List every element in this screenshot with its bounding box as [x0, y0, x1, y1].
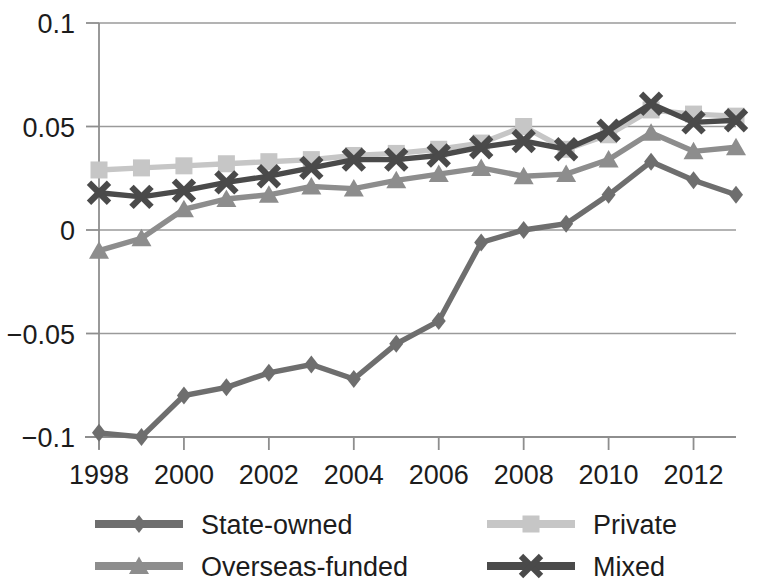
legend-item-state-owned: State-owned: [95, 510, 353, 540]
legend-label-state-owned: State-owned: [201, 510, 353, 540]
marker-square: [133, 159, 150, 176]
square-marker: [218, 155, 235, 172]
chart-canvas: 0.10.050−0.05−0.1 1998200020022004200620…: [0, 0, 776, 585]
x-tick-label-5: 2008: [494, 460, 554, 490]
x-tick-label-3: 2004: [324, 460, 384, 490]
marker-square: [523, 516, 540, 533]
marker-diamond: [304, 356, 318, 374]
legend-label-overseas-funded: Overseas-funded: [201, 552, 408, 582]
y-tick-label-1: 0.05: [22, 113, 75, 143]
marker-diamond: [132, 515, 146, 533]
diamond-marker: [729, 186, 743, 204]
series-line: [99, 162, 736, 437]
diamond-marker: [92, 424, 106, 442]
marker-square: [91, 161, 108, 178]
square-marker: [133, 159, 150, 176]
square-marker: [523, 516, 540, 533]
legend-item-private: Private: [487, 510, 677, 540]
marker-diamond: [517, 221, 531, 239]
x-tick-label-1: 2000: [154, 460, 214, 490]
square-marker: [175, 157, 192, 174]
diamond-marker: [219, 378, 233, 396]
y-tick-label-3: −0.05: [7, 320, 75, 350]
legend-item-overseas-funded: Overseas-funded: [95, 552, 408, 582]
diamond-marker: [262, 364, 276, 382]
gridlines: [99, 23, 736, 437]
x-tick-label-6: 2010: [579, 460, 639, 490]
square-marker: [91, 161, 108, 178]
marker-diamond: [92, 424, 106, 442]
marker-diamond: [219, 378, 233, 396]
x-tick-label-0: 1998: [69, 460, 129, 490]
x-tick-label-2: 2002: [239, 460, 299, 490]
chart-legend: State-ownedPrivateOverseas-fundedMixed: [95, 510, 677, 582]
y-tick-label-0: 0.1: [37, 9, 75, 39]
legend-label-mixed: Mixed: [593, 552, 665, 582]
diamond-marker: [132, 515, 146, 533]
diamond-marker: [517, 221, 531, 239]
legend-label-private: Private: [593, 510, 677, 540]
line-chart: 0.10.050−0.05−0.1 1998200020022004200620…: [0, 0, 776, 585]
y-tick-label-2: 0: [60, 216, 75, 246]
x-axis-tick-labels: 19982000200220042006200820102012: [69, 460, 724, 490]
axes: [85, 23, 736, 450]
diamond-marker: [304, 356, 318, 374]
marker-square: [175, 157, 192, 174]
diamond-marker: [687, 171, 701, 189]
marker-diamond: [729, 186, 743, 204]
x-tick-label-4: 2006: [409, 460, 469, 490]
data-series: [89, 94, 746, 446]
y-tick-label-4: −0.1: [22, 423, 75, 453]
marker-diamond: [687, 171, 701, 189]
legend-item-mixed: Mixed: [487, 552, 665, 582]
x-tick-label-7: 2012: [663, 460, 723, 490]
marker-diamond: [262, 364, 276, 382]
marker-square: [218, 155, 235, 172]
y-axis-tick-labels: 0.10.050−0.05−0.1: [7, 9, 75, 453]
